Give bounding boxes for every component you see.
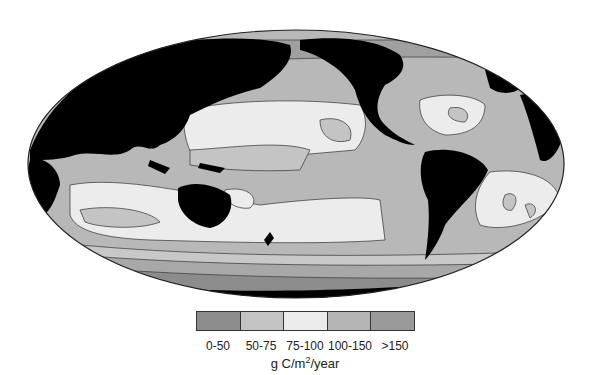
legend-swatch-0-50 xyxy=(197,312,241,330)
world-productivity-map xyxy=(0,0,599,305)
legend-label: 0-50 xyxy=(206,339,230,353)
legend-swatch-75-100 xyxy=(284,312,328,330)
legend-swatch-100-150 xyxy=(328,312,372,330)
legend-label: >150 xyxy=(381,339,408,353)
legend-label: 100-150 xyxy=(328,339,372,353)
legend-units: g C/m2/year xyxy=(271,355,340,371)
legend-label: 75-100 xyxy=(286,339,323,353)
legend-swatch-50-75 xyxy=(241,312,285,330)
productivity-legend-bar xyxy=(196,311,415,331)
legend-label: 50-75 xyxy=(246,339,277,353)
legend-swatch-over-150 xyxy=(371,312,414,330)
